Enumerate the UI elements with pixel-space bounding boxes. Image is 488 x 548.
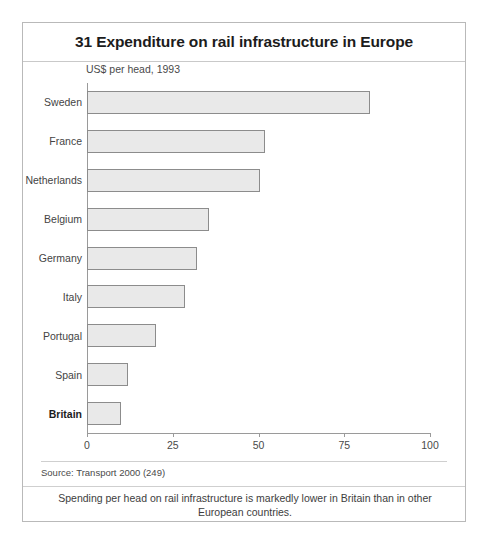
bar bbox=[87, 402, 121, 425]
bar bbox=[87, 91, 370, 114]
bar-series: SwedenFranceNetherlandsBelgiumGermanyIta… bbox=[87, 83, 430, 433]
category-label: Germany bbox=[39, 252, 82, 264]
x-tick-label: 100 bbox=[421, 439, 439, 451]
bar bbox=[87, 208, 209, 231]
source-divider bbox=[41, 461, 447, 462]
x-axis-ticks: 0255075100 bbox=[87, 433, 430, 455]
caption-divider bbox=[23, 486, 465, 487]
bar bbox=[87, 324, 156, 347]
bar-row: Spain bbox=[87, 355, 430, 394]
category-label: Spain bbox=[55, 369, 82, 381]
figure-caption: Spending per head on rail infrastructure… bbox=[49, 491, 441, 519]
category-label: France bbox=[49, 135, 82, 147]
bar-row: Italy bbox=[87, 277, 430, 316]
title-divider bbox=[23, 61, 465, 62]
bar-row: Germany bbox=[87, 239, 430, 278]
x-tick-mark bbox=[259, 433, 260, 437]
category-label: Italy bbox=[63, 291, 82, 303]
chart-title: 31 Expenditure on rail infrastructure in… bbox=[23, 33, 465, 51]
category-label: Netherlands bbox=[25, 174, 82, 186]
x-tick-label: 0 bbox=[84, 439, 90, 451]
figure-frame: 31 Expenditure on rail infrastructure in… bbox=[22, 22, 466, 522]
x-tick-mark bbox=[87, 433, 88, 437]
x-tick-mark bbox=[430, 433, 431, 437]
plot-area: SwedenFranceNetherlandsBelgiumGermanyIta… bbox=[87, 83, 430, 433]
source-note: Source: Transport 2000 (249) bbox=[41, 467, 165, 478]
x-tick-mark bbox=[173, 433, 174, 437]
chart-subtitle: US$ per head, 1993 bbox=[86, 63, 180, 75]
category-label: Belgium bbox=[44, 213, 82, 225]
bar-row: Portugal bbox=[87, 316, 430, 355]
category-label: Britain bbox=[49, 408, 82, 420]
category-label: Portugal bbox=[43, 330, 82, 342]
x-tick-mark bbox=[344, 433, 345, 437]
x-tick-label: 50 bbox=[253, 439, 265, 451]
bar-row: Sweden bbox=[87, 83, 430, 122]
bar-row: France bbox=[87, 122, 430, 161]
bar bbox=[87, 247, 197, 270]
plot-wrapper: SwedenFranceNetherlandsBelgiumGermanyIta… bbox=[23, 79, 467, 454]
bar bbox=[87, 130, 265, 153]
bar bbox=[87, 285, 185, 308]
bar-row: Britain bbox=[87, 394, 430, 433]
x-tick-label: 75 bbox=[338, 439, 350, 451]
bar bbox=[87, 169, 260, 192]
x-tick-label: 25 bbox=[167, 439, 179, 451]
bar-row: Belgium bbox=[87, 200, 430, 239]
bar-row: Netherlands bbox=[87, 161, 430, 200]
bar bbox=[87, 363, 128, 386]
category-label: Sweden bbox=[44, 96, 82, 108]
